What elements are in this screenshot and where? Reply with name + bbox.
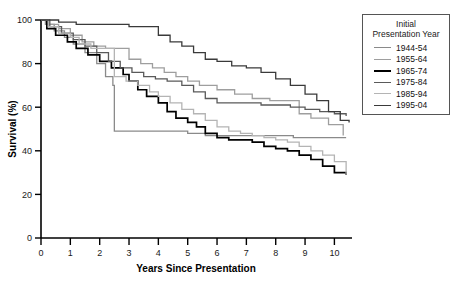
x-tick-layer: 012345678910 xyxy=(38,238,339,258)
legend-item-label: 1985-94 xyxy=(396,89,427,99)
y-tick-layer: 020406080100 xyxy=(17,15,41,243)
legend-item-label: 1995-04 xyxy=(396,100,427,110)
chart-figure: 020406080100 012345678910 Survival (%) Y… xyxy=(0,0,457,283)
legend-line-swatch-icon xyxy=(374,82,391,83)
survival-curve-1975-84 xyxy=(41,20,346,116)
survival-curve-1965-74 xyxy=(41,20,346,175)
x-tick-label: 8 xyxy=(273,248,278,258)
y-axis-title: Survival (%) xyxy=(7,100,18,157)
legend-line-swatch-icon xyxy=(374,47,391,48)
legend-item-1944-54[interactable]: 1944-54 xyxy=(368,42,444,54)
x-tick-label: 2 xyxy=(97,248,102,258)
legend-item-1985-94[interactable]: 1985-94 xyxy=(368,88,444,100)
legend-title: Initial Presentation Year xyxy=(368,19,444,39)
x-tick-label: 1 xyxy=(68,248,73,258)
survival-curve-1955-64 xyxy=(41,20,343,136)
legend-item-label: 1965-74 xyxy=(396,66,427,76)
y-tick-label: 20 xyxy=(22,190,32,200)
y-tick-label: 60 xyxy=(22,103,32,113)
legend-title-line2: Presentation Year xyxy=(368,29,444,39)
x-tick-label: 4 xyxy=(156,248,161,258)
survival-curve-1944-54 xyxy=(41,20,346,138)
legend-item-label: 1955-64 xyxy=(396,54,427,64)
legend-item-1965-74[interactable]: 1965-74 xyxy=(368,65,444,77)
legend-title-line1: Initial xyxy=(368,19,444,29)
x-tick-label: 10 xyxy=(329,248,339,258)
survival-curve-1985-94 xyxy=(41,20,346,175)
legend-item-1975-84[interactable]: 1975-84 xyxy=(368,77,444,89)
x-tick-label: 3 xyxy=(127,248,132,258)
legend-line-swatch-icon xyxy=(374,59,391,60)
legend-item-1995-04[interactable]: 1995-04 xyxy=(368,100,444,112)
x-tick-label: 7 xyxy=(244,248,249,258)
legend-entries: 1944-541955-641965-741975-841985-941995-… xyxy=(368,42,444,111)
legend-box: Initial Presentation Year 1944-541955-64… xyxy=(362,14,450,115)
legend-item-label: 1944-54 xyxy=(396,43,427,53)
x-axis-title: Years Since Presentation xyxy=(136,263,256,274)
y-tick-label: 0 xyxy=(27,233,32,243)
x-tick-label: 6 xyxy=(215,248,220,258)
legend-item-1955-64[interactable]: 1955-64 xyxy=(368,54,444,66)
x-tick-label: 5 xyxy=(185,248,190,258)
legend-line-swatch-icon xyxy=(374,105,391,106)
legend-line-swatch-icon xyxy=(374,93,391,94)
x-tick-label: 0 xyxy=(38,248,43,258)
y-tick-label: 80 xyxy=(22,59,32,69)
legend-line-swatch-icon xyxy=(374,70,391,72)
x-tick-label: 9 xyxy=(303,248,308,258)
y-tick-label: 40 xyxy=(22,146,32,156)
y-tick-label: 100 xyxy=(17,15,32,25)
survival-curve-layer xyxy=(41,20,349,175)
legend-item-label: 1975-84 xyxy=(396,77,427,87)
